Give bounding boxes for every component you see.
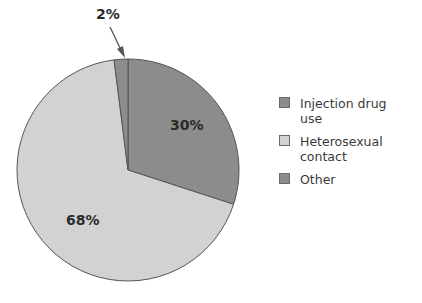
legend-swatch	[279, 135, 290, 146]
legend-swatch	[279, 97, 290, 108]
slice-label-other: 2%	[96, 6, 120, 22]
legend-item-heterosexual-contact: Heterosexual contact	[279, 134, 410, 164]
legend-item-injection-drug-use: Injection drug use	[279, 96, 410, 126]
legend-label: Injection drug use	[300, 96, 410, 126]
legend-item-other: Other	[279, 172, 410, 187]
other-annotation-arrow	[110, 27, 125, 58]
slice-label-heterosexual-contact: 68%	[66, 212, 100, 228]
legend-label: Heterosexual contact	[300, 134, 380, 164]
legend: Injection drug use Heterosexual contact …	[279, 96, 410, 187]
slice-label-injection-drug-use: 30%	[170, 117, 204, 133]
legend-swatch	[279, 173, 290, 184]
legend-label: Other	[300, 172, 410, 187]
